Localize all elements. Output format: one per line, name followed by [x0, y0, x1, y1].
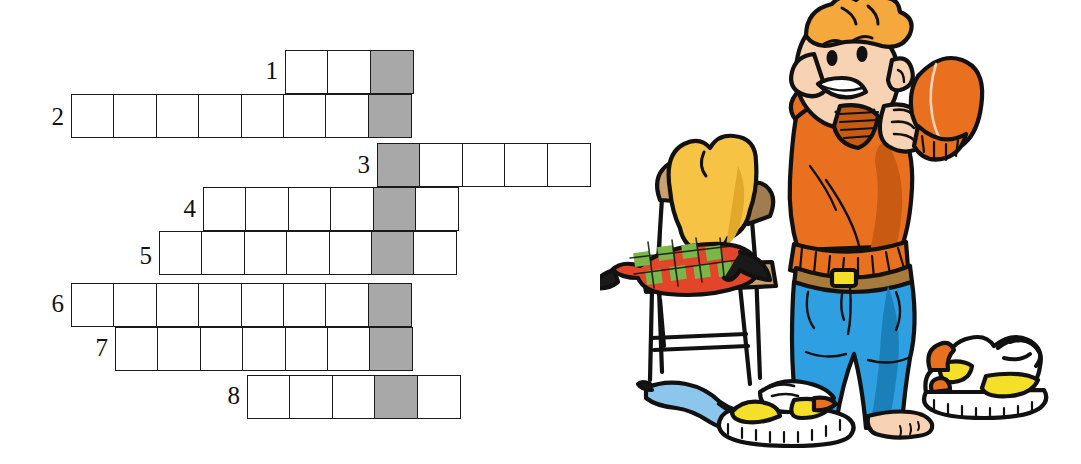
sneaker-loose: [924, 337, 1046, 418]
crossword-clue-number-5: 5: [126, 243, 152, 268]
crossword-cell[interactable]: [413, 231, 457, 275]
crossword-row-3: [377, 143, 589, 187]
boy-eye-left: [827, 50, 838, 66]
plaid-garment: [600, 238, 770, 295]
crossword-clue-number-4: 4: [170, 196, 196, 221]
boy-eye-right: [857, 46, 868, 62]
crossword-cell[interactable]: [283, 94, 327, 138]
crossword-cell[interactable]: [289, 375, 333, 419]
boy-hair: [806, 0, 912, 47]
crossword-cell[interactable]: [241, 283, 285, 327]
crossword-cell-shaded[interactable]: [370, 50, 414, 94]
crossword-clue-number-6: 6: [38, 291, 64, 316]
crossword-row-6: [71, 283, 410, 327]
crossword-cell-shaded[interactable]: [374, 375, 418, 419]
crossword-cell[interactable]: [200, 327, 244, 371]
crossword-cell-shaded[interactable]: [373, 187, 417, 231]
crossword-cell[interactable]: [285, 327, 329, 371]
crossword-cell[interactable]: [547, 143, 591, 187]
crossword-cell[interactable]: [330, 187, 374, 231]
crossword-cell[interactable]: [115, 327, 159, 371]
crossword-cell[interactable]: [325, 283, 369, 327]
crossword-clue-number-7: 7: [82, 335, 108, 360]
crossword-row-4: [203, 187, 457, 231]
crossword-cell[interactable]: [71, 283, 115, 327]
yellow-garment: [669, 136, 757, 253]
crossword-cell[interactable]: [504, 143, 548, 187]
crossword-cell[interactable]: [242, 327, 286, 371]
crossword-row-8: [247, 375, 459, 419]
crossword-cell[interactable]: [198, 283, 242, 327]
crossword-row-5: [159, 231, 456, 275]
crossword-grid: 12345678: [0, 0, 620, 464]
crossword-clue-number-1: 1: [252, 58, 278, 83]
crossword-cell[interactable]: [201, 231, 245, 275]
crossword-cell[interactable]: [156, 94, 200, 138]
crossword-cell[interactable]: [198, 94, 242, 138]
crossword-cell[interactable]: [157, 327, 201, 371]
crossword-cell[interactable]: [462, 143, 506, 187]
crossword-cell[interactable]: [325, 94, 369, 138]
crossword-cell[interactable]: [71, 94, 115, 138]
crossword-cell[interactable]: [332, 375, 376, 419]
crossword-cell[interactable]: [419, 143, 463, 187]
crossword-cell[interactable]: [327, 327, 371, 371]
crossword-row-7: [115, 327, 412, 371]
crossword-cell[interactable]: [241, 94, 285, 138]
crossword-row-1: [285, 50, 412, 94]
crossword-cell-shaded[interactable]: [369, 327, 413, 371]
belt-buckle: [832, 270, 856, 286]
crossword-cell[interactable]: [285, 50, 329, 94]
crossword-cell[interactable]: [113, 94, 157, 138]
crossword-cell[interactable]: [159, 231, 203, 275]
worksheet-page: 12345678: [0, 0, 1081, 464]
crossword-cell[interactable]: [417, 375, 461, 419]
crossword-clue-number-2: 2: [38, 104, 64, 129]
illustration-boy-getting-dressed: [600, 0, 1081, 464]
illustration-svg: [600, 0, 1081, 464]
crossword-cell[interactable]: [156, 283, 200, 327]
crossword-row-2: [71, 94, 410, 138]
crossword-cell-shaded[interactable]: [371, 231, 415, 275]
crossword-cell[interactable]: [288, 187, 332, 231]
crossword-cell-shaded[interactable]: [368, 94, 412, 138]
crossword-cell-shaded[interactable]: [368, 283, 412, 327]
crossword-cell[interactable]: [415, 187, 459, 231]
crossword-clue-number-8: 8: [214, 383, 240, 408]
crossword-clue-number-3: 3: [344, 152, 370, 177]
crossword-cell[interactable]: [247, 375, 291, 419]
crossword-cell[interactable]: [329, 231, 373, 275]
crossword-cell[interactable]: [283, 283, 327, 327]
crossword-cell-shaded[interactable]: [377, 143, 421, 187]
crossword-cell[interactable]: [244, 231, 288, 275]
crossword-cell[interactable]: [113, 283, 157, 327]
crossword-cell[interactable]: [245, 187, 289, 231]
crossword-cell[interactable]: [203, 187, 247, 231]
crossword-cell[interactable]: [327, 50, 371, 94]
crossword-cell[interactable]: [286, 231, 330, 275]
